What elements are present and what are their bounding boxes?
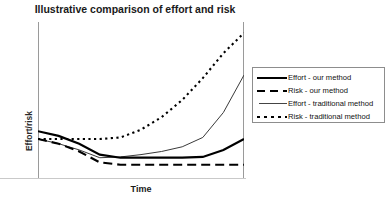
legend-label: Risk - traditional method (288, 111, 370, 122)
plot-area (38, 22, 244, 178)
legend-key-solid-thick-icon (256, 72, 288, 83)
legend-label: Effort - traditional method (288, 98, 373, 109)
legend-key-solid-thin-icon (256, 98, 288, 109)
chart-container: Illustrative comparison of effort and ri… (0, 0, 388, 207)
series-line-risk-traditional (38, 33, 244, 139)
y-axis-label-wrapper: Effort/risk (8, 60, 28, 130)
legend-item-effort-traditional: Effort - traditional method (256, 97, 382, 110)
legend-key-dotted-thick-icon (256, 111, 288, 122)
legend-item-effort-our: Effort - our method (256, 71, 382, 84)
legend-item-risk-traditional: Risk - traditional method (256, 110, 382, 123)
legend-key-dashed-thick-icon (256, 85, 288, 96)
y-axis-label: Effort/risk (24, 96, 34, 166)
x-axis-label: Time (38, 184, 244, 194)
series-lines (38, 22, 244, 178)
legend-item-risk-our: Risk - our method (256, 84, 382, 97)
series-line-effort-traditional (38, 75, 244, 158)
chart-legend: Effort - our method Risk - our method Ef… (252, 67, 385, 123)
series-line-effort-our (38, 131, 244, 158)
series-line-risk-our (38, 139, 244, 165)
legend-label: Effort - our method (288, 72, 351, 83)
chart-title: Illustrative comparison of effort and ri… (0, 3, 270, 15)
x-axis-extension (0, 178, 246, 179)
legend-label: Risk - our method (288, 85, 348, 96)
